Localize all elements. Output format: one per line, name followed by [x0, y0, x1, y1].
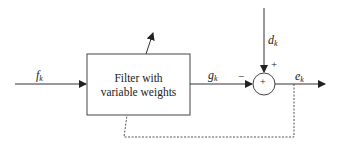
- filter-label-line2: variable weights: [101, 85, 177, 99]
- filter-output-subscript: k: [214, 74, 218, 83]
- summer-plus-symbol: +: [260, 76, 266, 87]
- input-signal-subscript: k: [39, 74, 43, 83]
- desired-signal-label: dk: [268, 33, 278, 48]
- error-signal-label: ek: [295, 69, 304, 84]
- filter-block-label: Filter with variable weights: [87, 54, 190, 115]
- plus-sign: +: [271, 58, 277, 70]
- adjustable-weight-arrow: [146, 33, 153, 54]
- minus-sign: −: [238, 70, 244, 82]
- desired-signal-subscript: k: [274, 39, 278, 48]
- input-signal-label: fk: [36, 68, 43, 83]
- filter-label-line1: Filter with: [114, 71, 162, 85]
- filter-output-label: gk: [208, 68, 218, 83]
- error-signal-subscript: k: [300, 75, 304, 84]
